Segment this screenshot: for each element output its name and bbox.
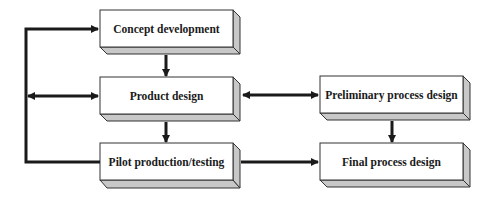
label-concept-development: Concept development	[100, 10, 233, 47]
label-preliminary-process-design: Preliminary process design	[320, 76, 463, 113]
label-pilot-production: Pilot production/testing	[100, 143, 233, 180]
label-final-process-design: Final process design	[320, 143, 463, 180]
label-product-design: Product design	[100, 77, 233, 114]
